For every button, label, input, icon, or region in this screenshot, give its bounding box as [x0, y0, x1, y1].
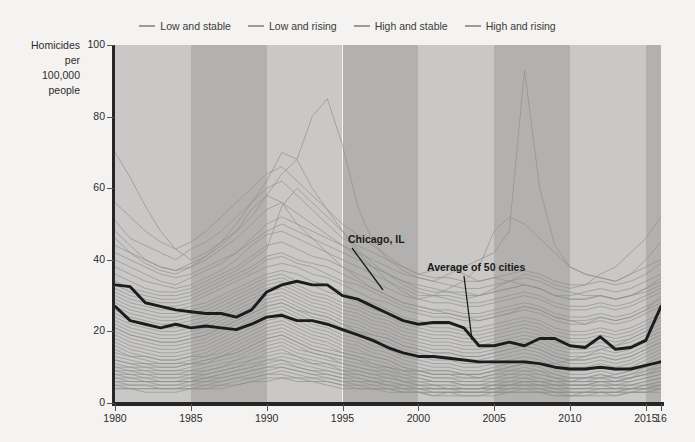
- y-axis-title-line: Homicides: [18, 38, 80, 53]
- legend-item-1[interactable]: Low and rising: [248, 20, 337, 32]
- chart-page: Low and stableLow and risingHigh and sta…: [0, 0, 695, 442]
- y-tick-mark: [107, 188, 114, 189]
- x-tick-mark: [191, 404, 192, 411]
- legend-swatch-icon: [248, 25, 264, 27]
- x-tick-label: 1985: [179, 412, 202, 424]
- x-tick-mark: [267, 404, 268, 411]
- x-tick-mark: [115, 404, 116, 411]
- y-tick-label: 80: [75, 110, 105, 122]
- legend-swatch-icon: [139, 25, 155, 27]
- y-tick-label: 0: [75, 396, 105, 408]
- x-tick-label: 1980: [103, 412, 126, 424]
- x-tick-mark: [494, 404, 495, 411]
- highlight-lines: [115, 45, 661, 403]
- y-tick-label: 20: [75, 324, 105, 336]
- x-tick-mark: [570, 404, 571, 411]
- x-tick-label: 2010: [558, 412, 581, 424]
- x-tick-label: 1990: [255, 412, 278, 424]
- legend-label: Low and stable: [160, 20, 231, 32]
- x-tick-label: 1995: [331, 412, 354, 424]
- y-tick-label: 100: [75, 38, 105, 50]
- highlight-line: [115, 281, 661, 349]
- x-axis-line: [112, 402, 664, 406]
- legend-item-3[interactable]: High and rising: [465, 20, 556, 32]
- x-tick-mark: [343, 404, 344, 411]
- legend-swatch-icon: [354, 25, 370, 27]
- y-tick-label: 60: [75, 181, 105, 193]
- y-axis-title-line: per: [18, 53, 80, 68]
- y-tick-label: 40: [75, 253, 105, 265]
- legend-item-2[interactable]: High and stable: [354, 20, 448, 32]
- y-axis-title-line: 100,000: [18, 68, 80, 83]
- y-axis-title-line: people: [18, 83, 80, 98]
- y-tick-mark: [107, 45, 114, 46]
- x-tick-label: 16: [655, 412, 667, 424]
- x-tick-mark: [646, 404, 647, 411]
- y-tick-mark: [107, 117, 114, 118]
- y-tick-mark: [107, 331, 114, 332]
- chart-legend: Low and stableLow and risingHigh and sta…: [0, 20, 695, 32]
- y-axis-line: [112, 45, 115, 403]
- y-tick-mark: [107, 403, 114, 404]
- plot-area: [115, 45, 661, 403]
- highlight-line: [115, 306, 661, 369]
- x-tick-mark: [661, 404, 662, 411]
- y-axis-title: Homicidesper100,000people: [18, 38, 80, 98]
- x-tick-mark: [418, 404, 419, 411]
- legend-label: Low and rising: [269, 20, 337, 32]
- legend-label: High and stable: [375, 20, 448, 32]
- legend-label: High and rising: [486, 20, 556, 32]
- x-tick-label: 2000: [407, 412, 430, 424]
- legend-item-0[interactable]: Low and stable: [139, 20, 231, 32]
- y-tick-mark: [107, 260, 114, 261]
- legend-swatch-icon: [465, 25, 481, 27]
- x-tick-label: 2005: [482, 412, 505, 424]
- x-tick-label: 2015: [634, 412, 657, 424]
